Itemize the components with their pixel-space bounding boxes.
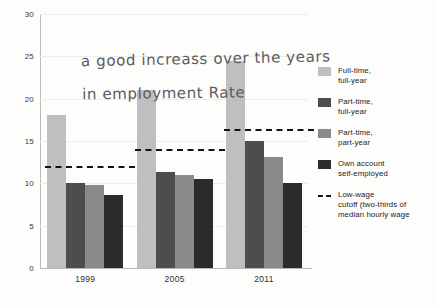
bar <box>226 61 245 268</box>
legend-item-label: Part-time,part-year <box>338 128 373 148</box>
legend-item-label: Part-time,full-year <box>338 97 373 117</box>
bar <box>264 157 283 268</box>
y-axis-ticks: 302520151050 <box>0 14 34 268</box>
bar-group <box>47 14 123 268</box>
low-wage-cutoff-line <box>45 166 135 168</box>
y-tick-label: 15 <box>8 137 34 146</box>
legend-item[interactable]: Full-time,full-year <box>318 66 432 86</box>
chart-legend: Full-time,full-yearPart-time,full-yearPa… <box>318 66 432 231</box>
legend-dash-icon <box>318 195 331 197</box>
legend-swatch-icon <box>318 67 331 76</box>
bar <box>137 90 156 268</box>
legend-item[interactable]: Own accountself-employed <box>318 159 432 179</box>
plot-area <box>40 14 308 268</box>
legend-swatch-icon <box>318 160 331 169</box>
y-tick-label: 25 <box>8 52 34 61</box>
bar-group <box>137 14 213 268</box>
bar <box>85 185 104 268</box>
legend-swatch-icon <box>318 129 331 138</box>
low-wage-cutoff-line <box>135 149 225 151</box>
low-wage-cutoff-line <box>224 129 314 131</box>
y-tick-label: 0 <box>8 264 34 273</box>
bar <box>104 195 123 268</box>
x-tick-label: 1999 <box>47 274 123 284</box>
legend-item[interactable]: Part-time,part-year <box>318 128 432 148</box>
x-tick-label: 2011 <box>226 274 302 284</box>
bar <box>245 141 264 268</box>
bar <box>156 172 175 268</box>
y-tick-label: 30 <box>8 10 34 19</box>
bar <box>283 183 302 269</box>
y-tick-label: 10 <box>8 179 34 188</box>
legend-item-label: Full-time,full-year <box>338 66 371 86</box>
bar-group <box>226 14 302 268</box>
bar-chart: 302520151050 199920052011 a good increas… <box>0 0 436 307</box>
legend-item[interactable]: Low-wagecutoff (two-thirds of median hou… <box>318 190 432 220</box>
bar <box>194 179 213 268</box>
x-axis-line <box>40 268 312 269</box>
legend-item[interactable]: Part-time,full-year <box>318 97 432 117</box>
y-tick-label: 20 <box>8 94 34 103</box>
x-tick-label: 2005 <box>137 274 213 284</box>
bar <box>66 183 85 268</box>
legend-swatch-icon <box>318 98 331 107</box>
y-tick-label: 5 <box>8 221 34 230</box>
bar <box>175 175 194 268</box>
legend-item-label: Own accountself-employed <box>338 159 388 179</box>
bar <box>47 115 66 268</box>
legend-item-label: Low-wagecutoff (two-thirds of median hou… <box>338 190 432 220</box>
